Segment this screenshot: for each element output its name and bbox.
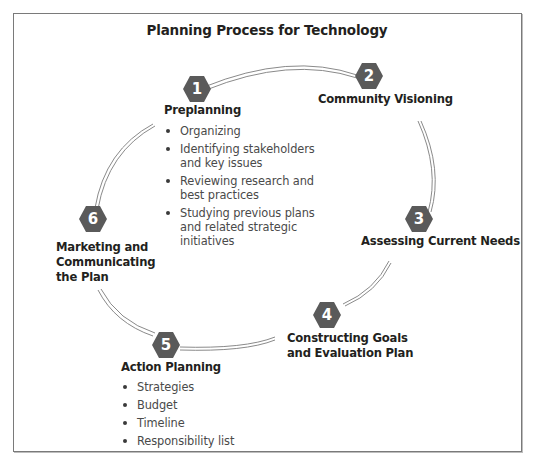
step-5-badge: 5: [152, 332, 180, 358]
step-1-number: 1: [183, 76, 211, 102]
step-3-badge: 3: [405, 206, 433, 232]
bullet-item: Studying previous plans and related stra…: [164, 206, 334, 248]
step-4-number: 4: [313, 302, 341, 328]
bullet-item: Budget: [121, 398, 291, 412]
arc-3-4: [343, 261, 389, 304]
step-6-number: 6: [79, 206, 107, 232]
step-1-badge: 1: [183, 76, 211, 102]
arc-6-1: [95, 124, 153, 208]
step-1-label: Preplanning: [164, 103, 241, 118]
bullet-item: Organizing: [164, 124, 334, 138]
bullet-item: Responsibility list: [121, 434, 291, 448]
step-4-label: Constructing Goals and Evaluation Plan: [287, 331, 413, 361]
step-6-label-line: the Plan: [56, 270, 155, 285]
step-6-label-line: Communicating: [56, 255, 155, 270]
step-2-label: Community Visioning: [318, 92, 453, 107]
step-6-label-line: Marketing and: [56, 240, 155, 255]
bullet-item: Reviewing research and best practices: [164, 174, 334, 202]
arc-2-3: [418, 121, 432, 212]
step-4-badge: 4: [313, 302, 341, 328]
step-6-badge: 6: [79, 206, 107, 232]
step-4-label-line: Constructing Goals: [287, 331, 413, 346]
bullet-item: Strategies: [121, 380, 291, 394]
step-4-label-line: and Evaluation Plan: [287, 346, 413, 361]
step-5-bullets: Strategies Budget Timeline Responsibilit…: [121, 380, 291, 452]
step-3-label: Assessing Current Needs: [361, 234, 520, 249]
step-3-number: 3: [405, 206, 433, 232]
step-5-label: Action Planning: [121, 360, 221, 375]
step-2-badge: 2: [355, 63, 383, 89]
arc-4-5: [180, 337, 275, 347]
step-2-number: 2: [355, 63, 383, 89]
step-6-label: Marketing and Communicating the Plan: [56, 240, 155, 285]
step-5-number: 5: [152, 332, 180, 358]
arc-1-2: [204, 66, 357, 87]
bullet-item: Timeline: [121, 416, 291, 430]
step-1-bullets: Organizing Identifying stakeholders and …: [164, 124, 334, 252]
bullet-item: Identifying stakeholders and key issues: [164, 142, 334, 170]
